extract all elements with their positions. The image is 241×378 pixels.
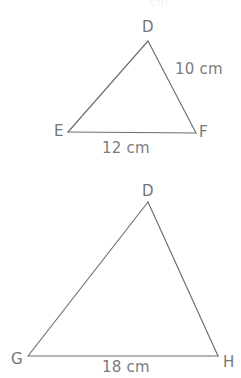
- geometry-figure-page: cm D E F 10 cm 12 cm D G H 18 cm: [0, 0, 241, 378]
- side-length-label-df: 10 cm: [175, 62, 223, 77]
- triangle-dgh: [28, 202, 218, 356]
- vertex-label-f: F: [199, 125, 208, 140]
- vertex-label-d-top: D: [142, 20, 154, 35]
- edge-d-f: [148, 41, 196, 133]
- vertex-label-e: E: [54, 124, 64, 139]
- vertex-label-h: H: [223, 355, 234, 370]
- vertex-label-g: G: [11, 352, 23, 367]
- vertex-label-d-bottom: D: [142, 184, 154, 199]
- side-length-label-gh: 18 cm: [102, 360, 150, 375]
- edge-e-f: [68, 132, 196, 133]
- edge-d-e: [68, 41, 148, 132]
- side-length-label-ef: 12 cm: [102, 141, 150, 156]
- edge-d-g: [28, 202, 148, 356]
- edge-d-h: [148, 202, 218, 356]
- triangles-diagram: [0, 0, 241, 378]
- triangle-def: [68, 41, 196, 133]
